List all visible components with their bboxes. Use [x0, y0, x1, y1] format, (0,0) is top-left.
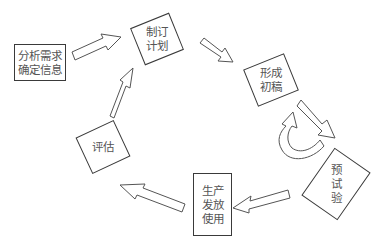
node-plan-label: 制订 计划	[146, 25, 168, 53]
arrow-analyze-to-plan	[72, 34, 121, 60]
arrow-draft-to-pretest	[297, 100, 335, 138]
node-analyze: 分析需求 确定信息	[14, 44, 66, 81]
node-analyze-label: 分析需求 确定信息	[18, 49, 62, 77]
node-pretest-label: 预 试 验	[331, 163, 342, 205]
arrows-layer	[0, 0, 378, 249]
arrow-evaluate-to-plan	[110, 68, 133, 118]
arrow-plan-to-draft	[200, 38, 233, 62]
node-produce-label: 生产 发放 使用	[202, 184, 224, 226]
arrow-pretest-to-produce	[233, 190, 290, 213]
arrow-produce-to-evaluate	[120, 184, 185, 212]
node-evaluate-label: 评估	[92, 140, 114, 154]
node-draft-label: 形成 初稿	[260, 66, 282, 94]
node-produce: 生产 发放 使用	[193, 173, 232, 236]
